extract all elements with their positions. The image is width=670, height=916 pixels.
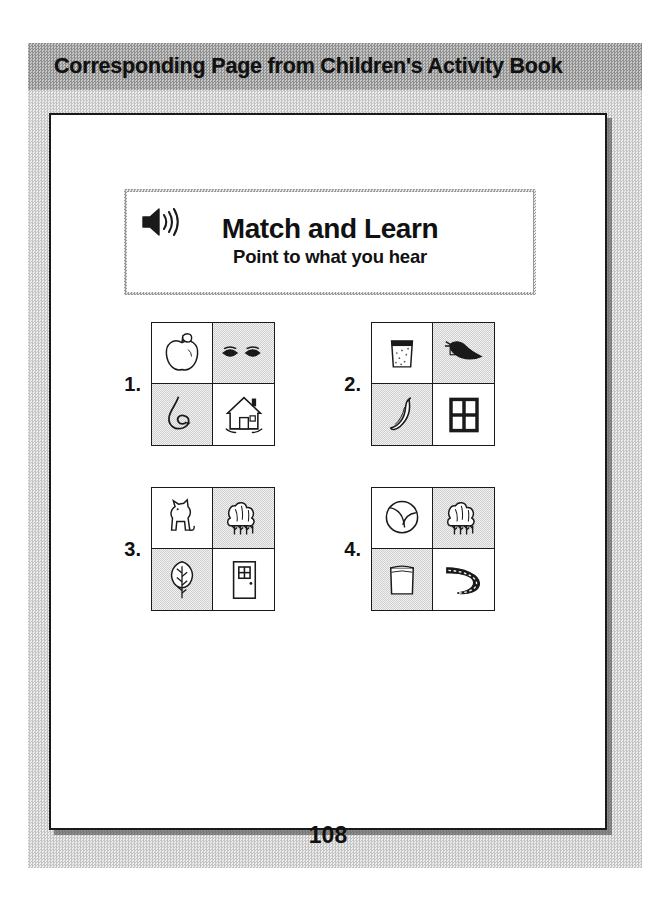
exercise-1[interactable]: 1.	[111, 322, 275, 446]
cell-house[interactable]	[213, 384, 274, 445]
ball-icon	[376, 492, 428, 544]
banana-icon	[376, 389, 428, 441]
window-icon	[438, 389, 490, 441]
activity-title-card: Match and Learn Point to what you hear	[124, 189, 536, 295]
trees-icon	[218, 492, 270, 544]
door-icon	[218, 554, 270, 606]
activity-title-text: Match and Learn Point to what you hear	[127, 214, 533, 268]
cell-box[interactable]	[372, 549, 433, 610]
cell-road[interactable]	[433, 549, 494, 610]
tree-icon	[156, 554, 208, 606]
activity-book-frame: Corresponding Page from Children's Activ…	[28, 43, 642, 868]
cell-bird[interactable]	[433, 323, 494, 384]
cell-cup[interactable]	[372, 323, 433, 384]
activity-title-card-inner: Match and Learn Point to what you hear	[127, 192, 533, 292]
cell-door[interactable]	[213, 549, 274, 610]
page-sheet: Match and Learn Point to what you hear 1…	[49, 113, 607, 830]
page-number: 108	[51, 822, 605, 849]
box-icon	[376, 554, 428, 606]
activity-title: Match and Learn	[127, 214, 533, 243]
exercise-number: 1.	[111, 373, 141, 396]
cell-banana[interactable]	[372, 384, 433, 445]
cell-trees[interactable]	[213, 488, 274, 549]
page-title: Corresponding Page from Children's Activ…	[54, 54, 562, 79]
cell-cat[interactable]	[152, 488, 213, 549]
exercise-grid[interactable]	[371, 322, 495, 446]
exercise-grid[interactable]	[151, 487, 275, 611]
exercise-grid[interactable]	[151, 322, 275, 446]
cell-trees[interactable]	[433, 488, 494, 549]
exercise-number: 2.	[331, 373, 361, 396]
cat-icon	[156, 492, 208, 544]
exercise-number: 4.	[331, 538, 361, 561]
cell-tree[interactable]	[152, 549, 213, 610]
cell-apple[interactable]	[152, 323, 213, 384]
cell-snake[interactable]	[152, 384, 213, 445]
cell-ball[interactable]	[372, 488, 433, 549]
eyes-icon	[218, 327, 270, 379]
house-icon	[218, 389, 270, 441]
exercise-grid[interactable]	[371, 487, 495, 611]
bird-icon	[438, 327, 490, 379]
exercise-number: 3.	[111, 538, 141, 561]
exercise-2[interactable]: 2.	[331, 322, 495, 446]
header-band: Corresponding Page from Children's Activ…	[28, 43, 642, 90]
trees-icon	[438, 492, 490, 544]
exercise-row-2: 3.	[111, 487, 495, 611]
apple-icon	[156, 327, 208, 379]
road-icon	[438, 554, 490, 606]
cell-window[interactable]	[433, 384, 494, 445]
cup-icon	[376, 327, 428, 379]
activity-subtitle: Point to what you hear	[127, 246, 533, 268]
exercise-4[interactable]: 4.	[331, 487, 495, 611]
snake-icon	[156, 389, 208, 441]
exercise-3[interactable]: 3.	[111, 487, 275, 611]
cell-eyes[interactable]	[213, 323, 274, 384]
exercise-row-1: 1.	[111, 322, 495, 446]
